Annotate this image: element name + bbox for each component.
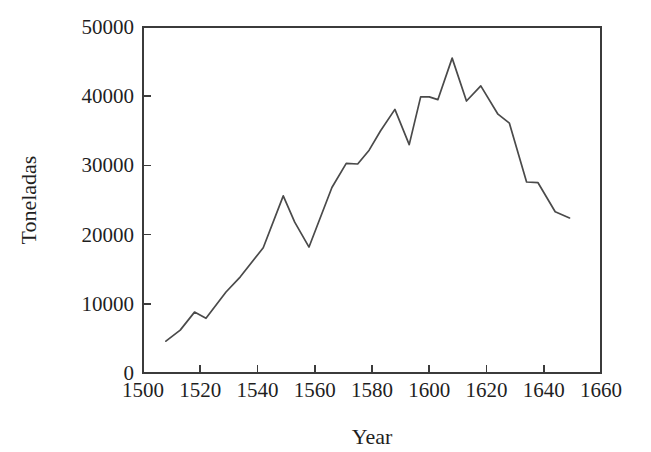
x-axis-ticks xyxy=(143,365,601,373)
y-tick-label: 20000 xyxy=(82,223,135,247)
x-axis-tick-labels: 150015201540156015801600162016401660 xyxy=(122,378,622,402)
y-axis-title: Toneladas xyxy=(16,156,41,245)
x-tick-label: 1520 xyxy=(179,378,221,402)
x-tick-label: 1540 xyxy=(237,378,279,402)
x-tick-label: 1620 xyxy=(466,378,508,402)
x-tick-label: 1660 xyxy=(580,378,622,402)
x-axis-title: Year xyxy=(352,424,393,449)
chart-axes xyxy=(143,27,601,373)
y-axis-tick-labels: 01000020000300004000050000 xyxy=(82,15,135,385)
data-series-line xyxy=(166,58,570,341)
axis-frame xyxy=(143,27,601,373)
y-tick-label: 30000 xyxy=(82,153,135,177)
x-tick-label: 1600 xyxy=(408,378,450,402)
y-tick-label: 50000 xyxy=(82,15,135,39)
y-tick-label: 10000 xyxy=(82,292,135,316)
chart-figure: 150015201540156015801600162016401660 010… xyxy=(0,0,651,452)
x-tick-label: 1580 xyxy=(351,378,393,402)
x-tick-label: 1560 xyxy=(294,378,336,402)
x-tick-label: 1640 xyxy=(523,378,565,402)
y-tick-label: 0 xyxy=(124,361,135,385)
y-tick-label: 40000 xyxy=(82,84,135,108)
y-axis-ticks xyxy=(143,27,151,373)
line-chart: 150015201540156015801600162016401660 010… xyxy=(0,0,651,452)
